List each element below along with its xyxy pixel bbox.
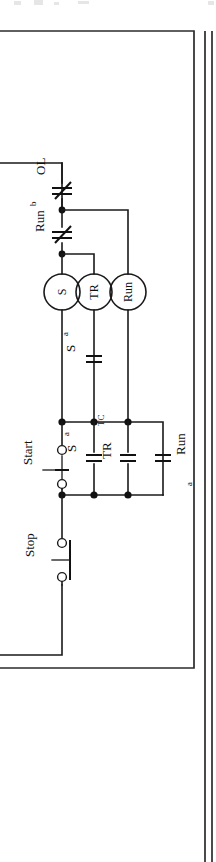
coil-tr-label: TR bbox=[87, 284, 101, 299]
supply-rails bbox=[0, 163, 62, 655]
ol-contact: OL bbox=[33, 158, 72, 210]
junction-node-n7 bbox=[90, 491, 97, 498]
rail-bottom-left bbox=[0, 585, 62, 655]
ladder-diagram: OL Run b S bbox=[0, 0, 216, 862]
runb-label: Run bbox=[32, 210, 47, 232]
sa-contact-lower: S a bbox=[61, 422, 102, 495]
start-label: Start bbox=[20, 440, 35, 465]
trtc-contact: TR TC bbox=[96, 414, 136, 495]
sa-lower-label: S bbox=[64, 445, 79, 452]
runa-label-subscript: a bbox=[184, 482, 194, 486]
stop-label: Stop bbox=[22, 533, 37, 557]
coil-run-label: Run bbox=[121, 282, 135, 302]
runa-label: Run bbox=[173, 433, 188, 455]
ol-label: OL bbox=[33, 158, 48, 175]
junction-node-n8 bbox=[124, 491, 131, 498]
sa-contact-upper: S a bbox=[60, 332, 102, 362]
trtc-label: TR bbox=[99, 442, 114, 459]
sa-upper-label: S bbox=[63, 345, 78, 352]
relay-coil-run: Run bbox=[110, 274, 146, 422]
figure-page: OL Run b S bbox=[0, 0, 216, 862]
sa-upper-label-subscript: a bbox=[60, 332, 70, 336]
scan-artifacts bbox=[14, 0, 214, 5]
runa-contact: Run a bbox=[155, 433, 194, 486]
feeder-to-tr-coil bbox=[62, 254, 94, 274]
trtc-label-subscript: TC bbox=[96, 414, 106, 426]
runb-label-subscript: b bbox=[28, 201, 38, 206]
feeder-to-run-coil bbox=[62, 210, 128, 274]
coil-feeder-wires bbox=[62, 210, 128, 274]
relay-coil-tr: TR bbox=[76, 274, 112, 422]
border-box-main bbox=[0, 31, 194, 668]
stop-pushbutton: Stop bbox=[22, 495, 70, 585]
runb-contact: Run b bbox=[28, 201, 72, 254]
sa-lower-label-subscript: a bbox=[61, 432, 71, 436]
runa-branch-wire bbox=[128, 422, 163, 495]
coil-s-label: S bbox=[55, 289, 69, 296]
